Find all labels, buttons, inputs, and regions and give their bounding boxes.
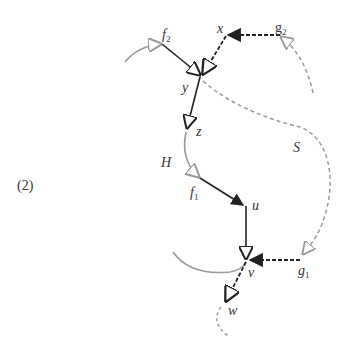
label-w: w [228, 304, 237, 318]
label-S: S [293, 141, 300, 155]
edge-v-w [226, 262, 246, 301]
figure-number: (2) [17, 179, 33, 193]
diagram-canvas [0, 0, 350, 353]
edge-y-z [187, 77, 200, 128]
label-g2: g2 [275, 21, 287, 37]
curve-w-tail [217, 307, 228, 336]
label-u: u [252, 199, 259, 213]
curve-into-v [173, 252, 246, 273]
label-y: y [182, 81, 188, 95]
label-f1: f1 [190, 186, 198, 202]
curve-g2-tail [281, 37, 313, 93]
label-z: z [196, 125, 201, 139]
label-H: H [161, 156, 171, 170]
label-v: v [248, 266, 254, 280]
curve-into-f2 [125, 44, 161, 62]
curve-S [203, 81, 330, 254]
label-g1: g1 [298, 264, 310, 280]
label-x: x [217, 22, 223, 36]
label-f2: f2 [162, 28, 170, 44]
edge-f2-y [162, 44, 200, 75]
edge-f1-u [200, 178, 243, 205]
edge-x-y [203, 36, 226, 74]
